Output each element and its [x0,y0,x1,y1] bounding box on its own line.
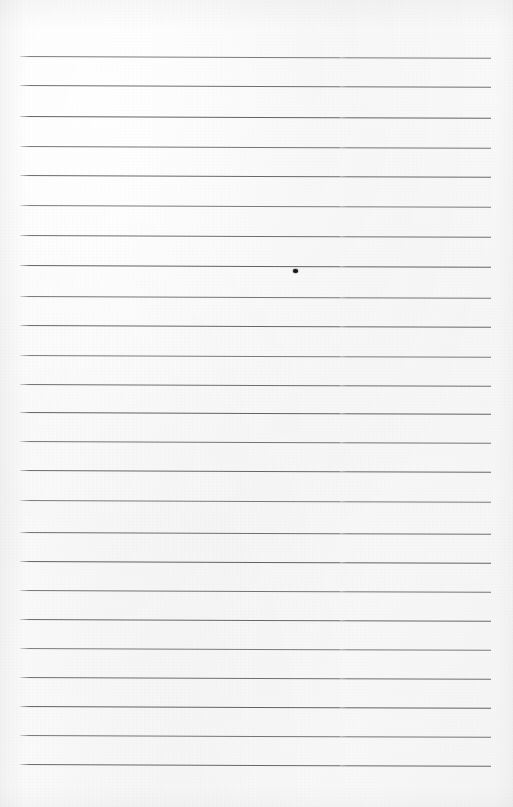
ruled-line [20,325,491,328]
ruled-line [20,561,491,564]
ruled-line [20,85,491,88]
ruled-line [20,590,491,593]
ruled-line [20,205,491,208]
ruled-line [20,677,491,680]
ruled-line [20,235,491,238]
ruled-line [20,706,491,709]
ruled-line [20,355,491,358]
ruled-line [20,619,491,622]
ruled-line [20,265,491,268]
ruled-line [20,116,491,119]
ruled-line [20,412,491,415]
ruled-line [20,146,491,149]
scanned-page [0,0,513,807]
ruled-line [20,470,491,473]
ruled-line [20,500,491,503]
ruled-line [20,648,491,651]
ruled-line [20,56,491,59]
ruled-lines-group [0,0,513,807]
ruled-line [20,384,491,387]
ink-dot-mark [293,269,298,273]
ruled-line [20,764,491,767]
ruled-line [20,175,491,178]
ruled-line [20,735,491,738]
ruled-line [20,532,491,535]
ruled-line [20,441,491,444]
ruled-line [20,296,491,299]
